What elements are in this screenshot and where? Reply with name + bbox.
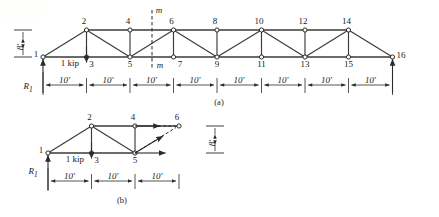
node-label-5: 5 <box>128 59 133 69</box>
span-label-a-8: 10' <box>365 75 377 85</box>
node-label-8: 8 <box>213 16 218 26</box>
node-label-12: 12 <box>299 16 308 26</box>
height-dimension-a <box>14 30 32 57</box>
node-label-3: 3 <box>89 59 94 69</box>
node-label-6: 6 <box>169 16 174 26</box>
height-dimension-b <box>206 126 224 153</box>
node-label-7: 7 <box>178 59 183 69</box>
node-label-15: 15 <box>344 59 354 69</box>
span-label-a-4: 10' <box>190 75 202 85</box>
force-arrows-b <box>135 126 166 153</box>
truss-a-joints <box>41 28 395 59</box>
section-label-m-bottom: m <box>157 60 164 70</box>
node-label-b-5: 5 <box>133 155 138 165</box>
node-label-13: 13 <box>301 59 311 69</box>
caption-a: (a) <box>214 97 224 107</box>
truss-a-members <box>43 30 393 57</box>
truss-figure: 2 4 6 8 10 12 14 1 3 5 7 9 11 13 15 16 m… <box>0 0 439 217</box>
reaction-label-a: R1 <box>22 81 32 94</box>
node-label-b-4: 4 <box>131 112 136 122</box>
caption-b: (b) <box>117 195 127 205</box>
span-label-a-7: 10' <box>321 75 333 85</box>
span-label-a-1: 10' <box>59 75 71 85</box>
span-label-b-2: 10' <box>108 171 120 181</box>
node-label-16: 16 <box>397 50 407 60</box>
node-label-1: 1 <box>34 49 39 59</box>
node-label-10: 10 <box>255 16 265 26</box>
node-label-b-2: 2 <box>87 112 92 122</box>
truss-b-members <box>48 126 179 153</box>
span-label-a-2: 10' <box>103 75 115 85</box>
span-label-b-3: 10' <box>152 171 164 181</box>
span-label-a-3: 10' <box>146 75 158 85</box>
load-label-b: 1 kip <box>66 154 85 164</box>
node-label-b-3: 3 <box>94 155 99 165</box>
node-label-14: 14 <box>342 16 352 26</box>
node-label-4: 4 <box>126 16 131 26</box>
node-label-b-6: 6 <box>175 112 180 122</box>
span-dimensions-a <box>43 72 393 95</box>
height-label-a: 8' <box>15 43 25 51</box>
reaction-label-b: R1 <box>27 166 37 179</box>
node-label-11: 11 <box>257 59 266 69</box>
height-label-b: 8' <box>207 139 217 147</box>
load-label-a: 1 kip <box>61 58 80 68</box>
node-label-b-1: 1 <box>39 145 44 155</box>
span-label-a-6: 10' <box>278 75 290 85</box>
span-label-a-5: 10' <box>234 75 246 85</box>
span-label-b-1: 10' <box>64 171 76 181</box>
node-label-2: 2 <box>82 16 87 26</box>
node-label-9: 9 <box>215 59 220 69</box>
section-label-m-top: m <box>156 5 163 15</box>
